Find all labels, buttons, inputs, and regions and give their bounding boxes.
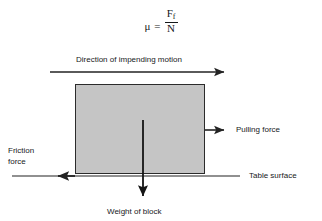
arrows-layer [0, 0, 322, 221]
physics-friction-diagram: μ = Ff N Direction of impending motion P… [0, 0, 322, 221]
